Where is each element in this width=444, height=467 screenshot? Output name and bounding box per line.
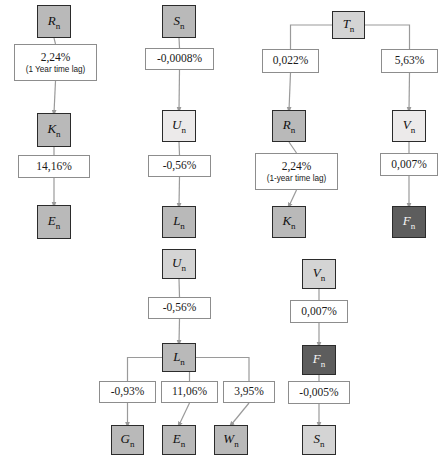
edge-label-l1[interactable]: 2,24%(1 Year time lag): [14, 44, 97, 81]
edge-label-l4[interactable]: -0,56%: [148, 155, 211, 177]
node-label: En: [48, 213, 60, 231]
edge-label-note: (1-year time lag): [267, 174, 327, 183]
node-k-c1n2[interactable]: Kn: [37, 113, 71, 147]
node-e-c2n7[interactable]: En: [162, 425, 196, 455]
edge-c2n2-to-l4: [179, 142, 180, 155]
node-subscript: n: [411, 125, 416, 135]
node-l-c2n5[interactable]: Ln: [162, 343, 196, 372]
edge-label-value: 0,007%: [301, 305, 336, 318]
edge-label-l10[interactable]: 5,63%: [381, 49, 438, 73]
edge-label-value: 3,95%: [234, 385, 264, 398]
edge-l7-to-c2n7: [179, 403, 190, 425]
edge-l11-to-c3n4: [289, 190, 297, 206]
node-u-c2n2[interactable]: Un: [162, 110, 196, 142]
node-subscript: n: [181, 263, 186, 273]
node-v-c3n3[interactable]: Vn: [392, 110, 426, 142]
node-subscript: n: [321, 359, 326, 369]
node-label: Un: [172, 255, 186, 273]
edge-l4-to-c2n3: [179, 177, 180, 206]
node-label: Wn: [223, 431, 238, 449]
node-subscript: n: [180, 356, 185, 366]
node-subscript: n: [180, 20, 185, 30]
node-v-c3n6[interactable]: Vn: [302, 259, 336, 289]
node-subscript: n: [411, 221, 416, 231]
edge-l3-to-c2n2: [179, 70, 180, 110]
node-f-c3n5[interactable]: Fn: [392, 206, 426, 238]
node-u-c2n4[interactable]: Un: [162, 249, 196, 279]
edge-label-l2[interactable]: 14,16%: [18, 155, 90, 178]
node-label: Rn: [48, 13, 60, 31]
edge-l5-to-c2n5: [179, 319, 180, 343]
node-label: Vn: [313, 265, 325, 283]
node-subscript: n: [130, 439, 135, 449]
node-f-c3n7[interactable]: Fn: [302, 345, 336, 375]
node-subscript: n: [320, 439, 325, 449]
edge-label-l12[interactable]: 0,007%: [380, 153, 438, 176]
edge-label-value: 2,24%: [282, 160, 312, 173]
edge-label-value: 14,16%: [36, 160, 71, 173]
edge-label-l6[interactable]: -0,93%: [99, 381, 156, 403]
node-label: En: [173, 431, 185, 449]
node-label: Tn: [343, 16, 355, 34]
edge-l8-to-c2n8: [231, 403, 249, 425]
node-subscript: n: [56, 221, 61, 231]
node-subscript: n: [181, 125, 186, 135]
edge-c2n4-to-l5: [179, 279, 180, 297]
node-w-c2n8[interactable]: Wn: [214, 425, 248, 455]
node-label: Sn: [174, 13, 185, 31]
node-subscript: n: [291, 125, 296, 135]
node-label: Sn: [314, 431, 325, 449]
edge-label-value: -0,56%: [163, 301, 197, 314]
node-subscript: n: [291, 221, 296, 231]
node-label: Kn: [282, 213, 295, 231]
node-subscript: n: [180, 221, 185, 231]
edge-label-l13[interactable]: 0,007%: [290, 300, 348, 323]
node-subscript: n: [350, 24, 355, 34]
edge-label-value: -0,0008%: [157, 52, 202, 65]
node-label: Rn: [283, 117, 295, 135]
edge-label-value: -0,56%: [163, 159, 197, 172]
node-subscript: n: [56, 20, 61, 30]
node-k-c3n4[interactable]: Kn: [272, 206, 306, 238]
edge-l9-to-c3n2: [289, 73, 291, 110]
node-t-c3n1[interactable]: Tn: [332, 11, 365, 39]
edge-l1-to-c1n2: [54, 81, 56, 113]
node-l-c2n3[interactable]: Ln: [162, 206, 196, 238]
edge-c2n1-to-l3: [179, 38, 180, 48]
edge-label-value: 11,06%: [172, 385, 207, 398]
edge-label-value: 0,007%: [391, 158, 426, 171]
node-label: Ln: [173, 349, 185, 367]
node-label: Fn: [403, 213, 415, 231]
node-subscript: n: [56, 129, 61, 139]
node-label: Kn: [47, 121, 60, 139]
edge-label-l3[interactable]: -0,0008%: [145, 48, 214, 70]
node-label: Un: [172, 117, 186, 135]
edge-label-value: -0,93%: [111, 385, 145, 398]
edge-label-value: 2,24%: [41, 51, 71, 64]
edge-label-value: -0,005%: [299, 386, 338, 399]
node-label: Ln: [173, 213, 185, 231]
edge-l10-to-c3n3: [409, 73, 410, 110]
node-r-c3n2[interactable]: Rn: [272, 110, 306, 142]
edge-label-l5[interactable]: -0,56%: [148, 297, 211, 319]
edge-label-l8[interactable]: 3,95%: [223, 381, 275, 403]
node-r-c1n1[interactable]: Rn: [37, 5, 71, 38]
node-subscript: n: [321, 273, 326, 283]
node-label: Gn: [121, 431, 135, 449]
node-subscript: n: [234, 439, 239, 449]
edge-label-note: (1 Year time lag): [26, 65, 86, 74]
flow-diagram-canvas: RnKnEnSnUnLnUnLnGnEnWnTnRnVnKnFnVnFnSn2,…: [0, 0, 444, 467]
edge-label-value: 0,022%: [273, 54, 308, 67]
node-e-c1n3[interactable]: En: [37, 205, 71, 239]
node-subscript: n: [181, 439, 186, 449]
node-g-c2n6[interactable]: Gn: [111, 425, 144, 455]
node-label: Vn: [403, 117, 415, 135]
edge-label-l9[interactable]: 0,022%: [262, 49, 319, 73]
node-label: Fn: [313, 351, 325, 369]
node-s-c3n8[interactable]: Sn: [302, 425, 336, 455]
edge-label-value: 5,63%: [395, 54, 425, 67]
node-s-c2n1[interactable]: Sn: [162, 5, 196, 38]
edge-label-l14[interactable]: -0,005%: [288, 381, 350, 404]
edge-label-l11[interactable]: 2,24%(1-year time lag): [255, 153, 338, 190]
edge-label-l7[interactable]: 11,06%: [161, 381, 218, 403]
